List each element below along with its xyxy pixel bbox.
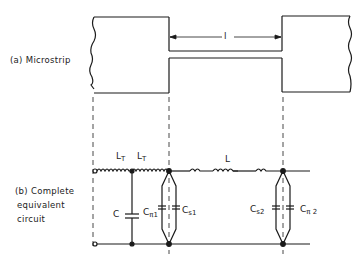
input-terminal-bottom bbox=[93, 242, 97, 246]
label-c-pi2: Cπ 2 bbox=[300, 204, 317, 216]
dashed-reference-lines bbox=[93, 97, 283, 254]
label-lt2: LT bbox=[137, 151, 146, 163]
narrow-strip bbox=[169, 51, 282, 58]
length-label: l bbox=[224, 31, 227, 41]
inductor-l-a bbox=[190, 169, 213, 171]
label-lt1: LT bbox=[116, 151, 125, 163]
inductor-lt1 bbox=[97, 169, 132, 171]
label-c: C bbox=[113, 209, 119, 219]
label-c-s2: Cs2 bbox=[250, 204, 264, 216]
label-circuit-line-3: circuit bbox=[17, 214, 45, 224]
microstrip-diagram bbox=[0, 0, 364, 262]
label-microstrip: (a) Microstrip bbox=[10, 55, 71, 65]
top-rail bbox=[97, 169, 310, 171]
label-l: L bbox=[225, 154, 230, 164]
inductor-lt2 bbox=[132, 169, 169, 171]
capacitor-c bbox=[125, 171, 139, 244]
left-wide-strip bbox=[90, 17, 169, 93]
inductor-l-c bbox=[256, 169, 271, 171]
label-circuit-line-2: equivalent bbox=[17, 200, 65, 210]
label-c-pi1: Cπ1 bbox=[143, 207, 158, 219]
label-c-s1: Cs1 bbox=[182, 205, 196, 217]
right-wide-strip bbox=[282, 16, 352, 92]
input-terminal-top bbox=[93, 169, 97, 173]
label-circuit-line-1: (b) Complete bbox=[15, 186, 74, 196]
